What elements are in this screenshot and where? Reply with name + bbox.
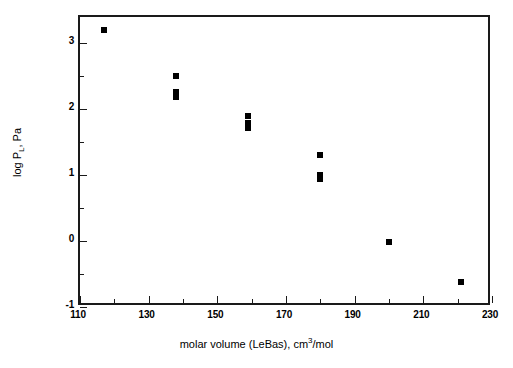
x-tick-label: 130	[139, 309, 155, 321]
x-tick-major	[492, 296, 493, 303]
x-tick-minor	[458, 299, 459, 303]
x-tick-label: 170	[276, 309, 292, 321]
x-tick-major	[80, 296, 81, 303]
y-tick-major	[80, 43, 87, 44]
data-point	[458, 279, 464, 285]
scatter-plot-figure: 110130150170190210230 -10123 molar volum…	[0, 0, 513, 368]
y-tick-label: 2	[58, 101, 74, 113]
y-tick-label: 3	[58, 35, 74, 47]
data-point	[317, 176, 323, 182]
y-tick-major	[80, 307, 87, 308]
y-axis-title-pre: log P	[11, 152, 23, 177]
x-tick-major	[286, 296, 287, 303]
data-point	[101, 27, 107, 33]
x-tick-major	[217, 296, 218, 303]
data-point	[317, 152, 323, 158]
x-tick-minor	[252, 299, 253, 303]
y-tick-major	[80, 241, 87, 242]
x-tick-minor	[114, 299, 115, 303]
y-axis-title-subscript: L	[17, 148, 26, 152]
x-tick-minor	[389, 299, 390, 303]
y-tick-minor	[80, 76, 84, 77]
x-tick-minor	[183, 299, 184, 303]
data-point	[173, 94, 179, 100]
plot-area	[78, 15, 490, 305]
x-tick-minor	[320, 299, 321, 303]
x-axis-title-pre: molar volume (LeBas), cm	[180, 338, 308, 350]
x-axis-title-post: /mol	[313, 338, 334, 350]
y-tick-label: -1	[58, 299, 74, 311]
y-tick-label: 0	[58, 233, 74, 245]
x-axis-title: molar volume (LeBas), cm3/mol	[0, 337, 513, 351]
y-tick-minor	[80, 142, 84, 143]
x-tick-label: 230	[482, 309, 498, 321]
y-axis-title: log PL, Pa	[11, 98, 24, 208]
x-tick-label: 150	[207, 309, 223, 321]
y-axis-title-post: , Pa	[11, 128, 23, 148]
y-tick-major	[80, 109, 87, 110]
data-point	[245, 125, 251, 131]
data-point	[245, 113, 251, 119]
y-tick-minor	[80, 274, 84, 275]
data-point	[173, 73, 179, 79]
y-tick-major	[80, 175, 87, 176]
x-tick-label: 190	[345, 309, 361, 321]
x-tick-label: 210	[413, 309, 429, 321]
x-tick-major	[149, 296, 150, 303]
y-tick-label: 1	[58, 167, 74, 179]
x-tick-major	[423, 296, 424, 303]
data-point	[386, 239, 392, 245]
y-tick-minor	[80, 208, 84, 209]
x-tick-major	[355, 296, 356, 303]
